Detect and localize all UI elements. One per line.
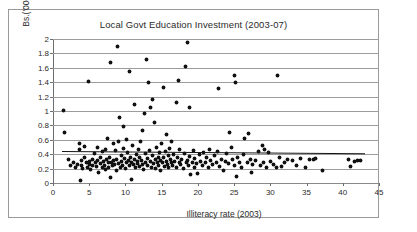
data-point [215,161,218,164]
y-tick-label: 0.4 [38,150,49,159]
data-point [96,146,99,149]
data-point [144,161,147,164]
data-point [126,151,129,154]
x-tick-mark [270,183,271,186]
data-point [178,148,181,151]
data-point [193,157,196,160]
data-point [250,171,253,174]
x-tick-label: 0 [51,188,55,197]
y-tick-mark [50,140,53,141]
data-point [106,137,109,140]
data-point [199,160,202,163]
data-point [127,159,130,162]
x-axis-title: Illiteracy rate (2003) [61,209,387,219]
y-tick-label: 0 [45,179,49,188]
y-tick-mark [50,111,53,112]
data-point [155,146,158,149]
data-point [128,164,131,167]
data-point [63,131,66,134]
data-point [125,138,128,141]
data-point [189,173,192,176]
data-point [188,155,191,158]
data-point [115,169,118,172]
data-point [208,148,211,151]
data-point [153,121,156,124]
data-point [128,70,131,73]
data-point [83,145,86,148]
chart-title: Local Govt Education Investment (2003-07… [9,19,378,30]
data-point [140,159,143,162]
data-point [286,158,289,161]
data-point [74,166,77,169]
data-point [314,157,317,160]
y-tick-label: 1.4 [38,78,49,87]
data-point [78,142,81,145]
x-tick-mark [125,183,126,186]
data-point [246,161,249,164]
y-tick-mark [50,39,53,40]
y-tick-label: 0.8 [38,121,49,130]
data-point [89,168,92,171]
data-point [276,74,279,77]
data-point [209,159,212,162]
data-point [233,164,236,167]
data-point [272,163,275,166]
data-point [213,154,216,157]
data-point [198,153,201,156]
y-tick-label: 0.6 [38,135,49,144]
data-point [162,156,165,159]
data-point [299,157,302,160]
data-point [240,166,243,169]
gridline [53,125,379,126]
gridline [53,169,379,170]
data-point [259,164,262,167]
data-point [168,147,171,150]
y-tick-mark [50,125,53,126]
chart-container: Local Govt Education Investment (2003-07… [8,9,379,218]
x-tick-label: 20 [193,188,202,197]
data-point [143,112,146,115]
data-point [91,164,94,167]
data-point [233,74,236,77]
data-point [129,156,132,159]
data-point [205,156,208,159]
x-tick-mark [162,183,163,186]
gridline [53,53,379,54]
data-point [227,162,230,165]
data-point [263,148,266,151]
data-point [228,131,231,134]
data-point [151,98,154,101]
plot-area: 00.20.40.60.811.21.41.61.82 051015202530… [53,39,379,183]
data-point [131,144,134,147]
y-tick-label: 0.2 [38,164,49,173]
data-point [104,148,107,151]
data-point [161,161,164,164]
data-point [201,164,204,167]
x-tick-mark [198,183,199,186]
data-point [220,158,223,161]
data-point [117,162,120,165]
data-point [267,151,270,154]
data-point [108,156,111,159]
data-point [196,172,199,175]
data-point [254,159,257,162]
x-tick-label: 25 [230,188,239,197]
y-tick-label: 1.6 [38,63,49,72]
data-point [172,153,175,156]
gridline [53,39,379,40]
data-point [83,156,86,159]
y-tick-mark [50,169,53,170]
data-point [115,158,118,161]
data-point [130,178,133,181]
data-point [202,151,205,154]
data-point [135,153,138,156]
data-point [347,158,350,161]
gridline [53,68,379,69]
data-point [146,164,149,167]
data-point [230,146,233,149]
data-point [261,144,264,147]
data-point [93,152,96,155]
data-point [132,163,135,166]
data-point [157,164,160,167]
y-tick-label: 1.2 [38,92,49,101]
